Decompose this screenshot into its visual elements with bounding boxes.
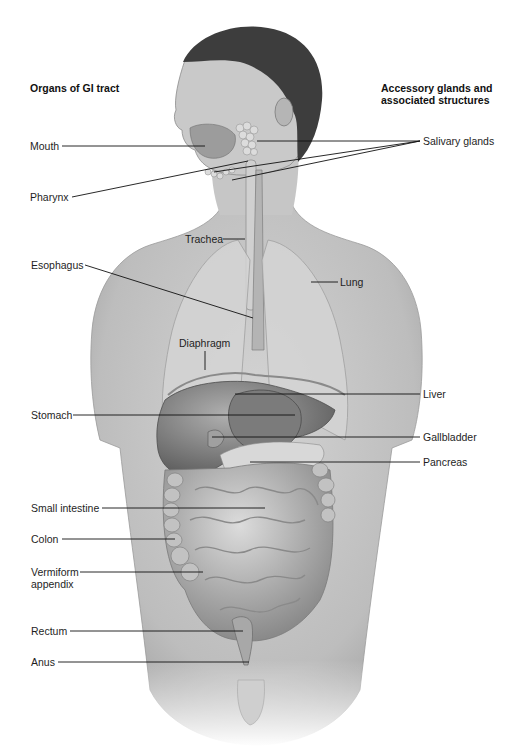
- label-vermiform-appendix-line2: appendix: [31, 578, 74, 590]
- label-trachea: Trachea: [185, 233, 223, 245]
- label-stomach: Stomach: [31, 409, 72, 421]
- label-rectum: Rectum: [31, 625, 67, 637]
- label-salivary-glands: Salivary glands: [423, 135, 494, 147]
- label-anus: Anus: [31, 656, 55, 668]
- label-vermiform-appendix-line1: Vermiform: [31, 566, 79, 578]
- label-liver: Liver: [423, 388, 446, 400]
- digestive-system-illustration: [0, 0, 513, 747]
- label-pancreas: Pancreas: [423, 456, 467, 468]
- label-gallbladder: Gallbladder: [423, 431, 477, 443]
- label-diaphragm: Diaphragm: [179, 337, 230, 349]
- label-esophagus: Esophagus: [31, 259, 84, 271]
- head: [174, 27, 322, 179]
- heading-accessory-glands-line1: Accessory glands and: [381, 82, 492, 94]
- heading-accessory-glands-line2: associated structures: [381, 94, 490, 106]
- label-colon: Colon: [31, 533, 58, 545]
- label-small-intestine: Small intestine: [31, 502, 99, 514]
- heading-gi-tract: Organs of GI tract: [30, 82, 119, 94]
- label-lung: Lung: [340, 276, 363, 288]
- label-pharynx: Pharynx: [30, 191, 69, 203]
- label-mouth: Mouth: [30, 140, 59, 152]
